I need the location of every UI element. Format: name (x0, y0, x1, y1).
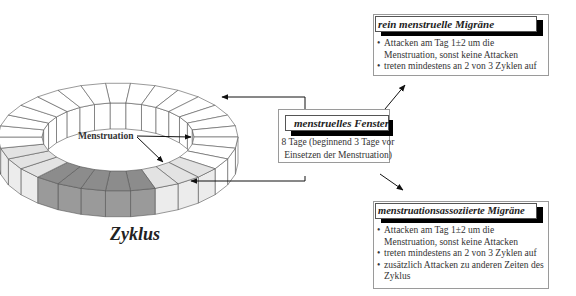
menstruation-associated-migraine-box: menstruationsassoziierte Migräne Attacke… (373, 201, 549, 289)
arrow-to-bottom-box (380, 174, 403, 190)
menstruation-label: Menstruation (78, 129, 133, 143)
menstrual-window-line-2: Einsetzen der Menstruation) (280, 149, 396, 162)
bullet-item: Attacken am Tag 1±2 um die Menstruation,… (377, 38, 549, 61)
menstruation-associated-migraine-title: menstruationsassoziierte Migräne (375, 203, 537, 219)
bullet-item: Attacken am Tag 1±2 um die Menstruation,… (377, 225, 549, 248)
menstrual-window-title: menstruelles Fenster (285, 115, 389, 131)
bullet-item: zusätzlich Attacken zu anderen Zeiten de… (377, 260, 549, 283)
menstrual-window-line-1: 8 Tage (beginnend 3 Tage vor (280, 136, 396, 149)
cycle-ring (0, 83, 238, 216)
pure-menstrual-migraine-title: rein menstruelle Migräne (375, 16, 537, 32)
bullet-item: treten mindestens an 2 von 3 Zyklen auf (377, 61, 549, 73)
pure-menstrual-migraine-box: rein menstruelle Migräne Attacken am Tag… (373, 14, 549, 76)
bullet-item: treten mindestens an 2 von 3 Zyklen auf (377, 248, 549, 260)
cycle-caption: Zyklus (110, 224, 160, 245)
menstruation-arrow-2 (137, 137, 163, 162)
